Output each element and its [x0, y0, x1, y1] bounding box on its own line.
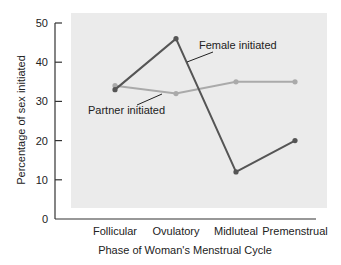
- data-point: [292, 79, 297, 84]
- data-point: [233, 169, 238, 174]
- y-tick-label: 50: [36, 17, 48, 29]
- y-axis-label: Percentage of sex initiated: [15, 55, 27, 185]
- x-tick-label: Follicular: [93, 225, 137, 237]
- partner-initiated-label: Partner initiated: [88, 104, 165, 116]
- data-point: [112, 87, 117, 92]
- x-tick-label: Ovulatory: [152, 225, 200, 237]
- y-tick-label: 10: [36, 174, 48, 186]
- x-tick-label: Premenstrual: [262, 225, 327, 237]
- x-axis-label: Phase of Woman's Menstrual Cycle: [98, 244, 272, 256]
- y-tick-label: 40: [36, 56, 48, 68]
- female-initiated-label: Female initiated: [199, 39, 277, 51]
- data-point: [233, 79, 238, 84]
- data-point: [173, 36, 178, 41]
- x-tick-labels: FollicularOvulatoryMidlutealPremenstrual: [93, 225, 328, 237]
- y-tick-label: 30: [36, 95, 48, 107]
- y-tick-label: 20: [36, 135, 48, 147]
- data-point: [292, 138, 297, 143]
- y-tick-label: 0: [42, 213, 48, 225]
- x-tick-label: Midluteal: [214, 225, 258, 237]
- y-ticks: 01020304050: [36, 17, 62, 225]
- data-point: [173, 91, 178, 96]
- menstrual-cycle-line-chart: 01020304050 FollicularOvulatoryMidluteal…: [0, 0, 341, 265]
